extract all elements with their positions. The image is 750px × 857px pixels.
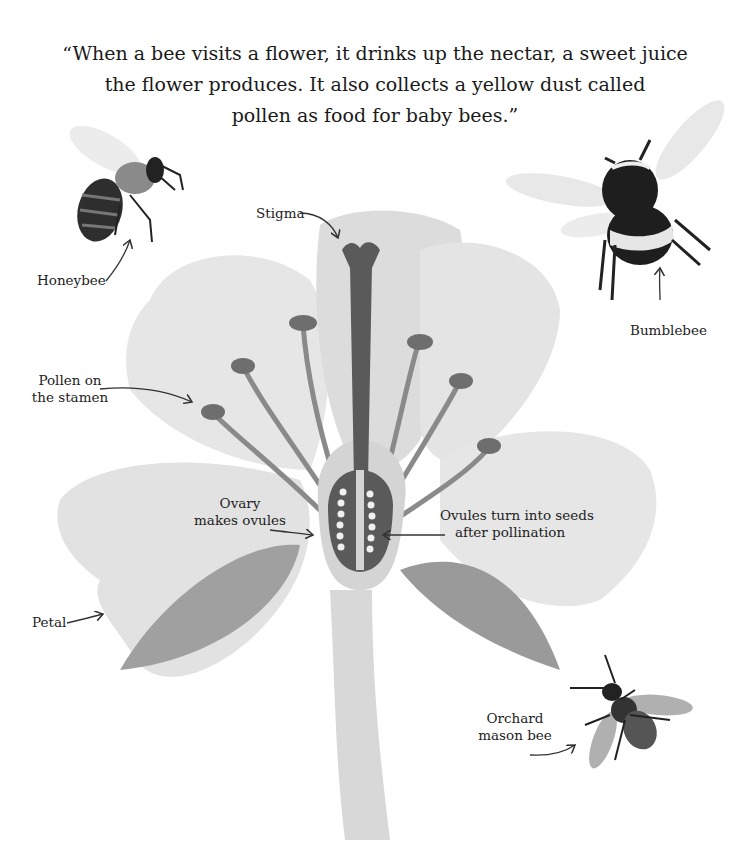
- label-orchard-line-2: mason bee: [475, 727, 555, 744]
- label-pollen-line-2: the stamen: [30, 389, 110, 406]
- label-pollen-on-stamen: Pollen on the stamen: [30, 372, 110, 406]
- bumblebee-illustration: [503, 91, 734, 300]
- orchard-mason-bee-illustration: [570, 655, 694, 772]
- label-ovary: Ovary makes ovules: [190, 495, 290, 529]
- label-pollen-line-1: Pollen on: [30, 372, 110, 389]
- label-orchard-mason-bee: Orchard mason bee: [475, 710, 555, 744]
- label-stigma: Stigma: [256, 205, 304, 222]
- petal-right-upper: [420, 243, 560, 463]
- label-ovules-line-1: Ovules turn into seeds: [440, 507, 580, 524]
- label-orchard-line-1: Orchard: [475, 710, 555, 727]
- petal-left-upper: [126, 255, 329, 470]
- label-ovary-line-2: makes ovules: [190, 512, 290, 529]
- label-ovules: Ovules turn into seeds after pollination: [440, 507, 580, 541]
- honeybee-illustration: [62, 116, 183, 246]
- label-petal: Petal: [32, 614, 66, 631]
- stem: [330, 590, 390, 840]
- label-ovules-line-2: after pollination: [440, 524, 580, 541]
- label-ovary-line-1: Ovary: [190, 495, 290, 512]
- flower-diagram: [0, 0, 750, 857]
- label-bumblebee: Bumblebee: [630, 322, 707, 339]
- label-honeybee: Honeybee: [37, 272, 106, 289]
